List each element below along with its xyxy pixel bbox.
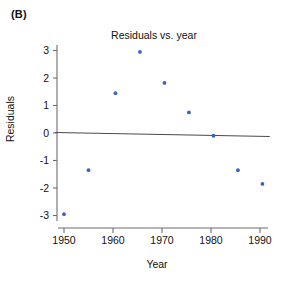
y-tick-label: -3	[40, 209, 49, 221]
data-point	[236, 168, 240, 172]
y-tick-label: 3	[43, 44, 49, 56]
y-tick-label: -2	[40, 182, 49, 194]
data-point	[212, 134, 216, 138]
y-tick-label: 1	[43, 99, 49, 111]
data-point	[261, 182, 265, 186]
figure-panel-b: (B) Residuals vs. year Residuals Year 32…	[0, 0, 286, 282]
data-point	[187, 110, 191, 114]
zero-trend-line	[55, 132, 270, 136]
data-point	[87, 168, 91, 172]
x-axis: 19501960197019801990	[52, 228, 272, 246]
y-tick-label: 0	[43, 127, 49, 139]
x-tick-label: 1950	[52, 234, 76, 246]
x-tick-label: 1960	[101, 234, 125, 246]
x-tick-label: 1980	[199, 234, 223, 246]
data-point	[138, 50, 142, 54]
data-point	[114, 91, 118, 95]
scatter-plot-canvas: 3210-1-2-3 19501960197019801990	[0, 0, 286, 282]
trend-line	[55, 132, 270, 136]
data-point	[62, 212, 66, 216]
x-tick-label: 1970	[150, 234, 174, 246]
data-point	[163, 81, 167, 85]
x-tick-label: 1990	[248, 234, 272, 246]
y-tick-label: 2	[43, 72, 49, 84]
y-tick-label: -1	[40, 154, 49, 166]
y-axis: 3210-1-2-3	[40, 44, 57, 221]
